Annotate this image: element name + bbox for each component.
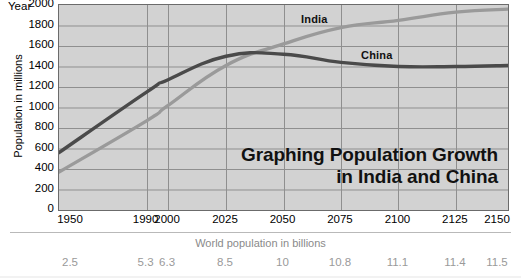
world-population-value: 6.3: [159, 256, 175, 268]
x-tick-label: 1950: [57, 213, 83, 225]
chart-title-line-2: in India and China: [178, 166, 498, 188]
y-tick-label: 1200: [10, 80, 54, 92]
y-tick-label: 200: [10, 183, 54, 195]
world-population-value: 2.5: [62, 256, 78, 268]
world-population-value: 11.1: [387, 256, 409, 268]
x-tick-label: 2075: [327, 213, 353, 225]
y-tick-label: 400: [10, 162, 54, 174]
series-line-china: [59, 53, 508, 153]
x-tick-label: 2050: [270, 213, 296, 225]
series-label-china: China: [361, 49, 393, 61]
world-population-value: 10: [276, 256, 289, 268]
divider-rule: [10, 232, 511, 233]
world-population-value: 8.5: [217, 256, 233, 268]
y-tick-label: 800: [10, 121, 54, 133]
world-population-value: 5.3: [138, 256, 154, 268]
y-tick-label: 1000: [10, 101, 54, 113]
series-label-india: India: [301, 13, 328, 25]
chart-title: Graphing Population Growth in India and …: [178, 144, 498, 189]
y-tick-label: 1800: [10, 19, 54, 31]
y-tick-label: 1400: [10, 60, 54, 72]
secondary-axis-caption: World population in billions: [0, 237, 521, 249]
y-tick-label: 1600: [10, 39, 54, 51]
x-tick-label: 2125: [442, 213, 468, 225]
world-population-tick-labels: 2.55.36.38.51010.811.111.411.5: [0, 256, 521, 272]
y-tick-label: 600: [10, 142, 54, 154]
x-tick-label: 2150: [484, 213, 510, 225]
world-population-value: 10.8: [329, 256, 351, 268]
x-axis-label-year: Year: [8, 0, 31, 12]
world-population-value: 11.4: [444, 256, 466, 268]
chart-title-line-1: Graphing Population Growth: [178, 144, 498, 166]
chart-figure: Population in millions 20001800160014001…: [0, 0, 521, 278]
x-tick-label: 2025: [212, 213, 238, 225]
world-population-value: 11.5: [486, 256, 508, 268]
x-axis-tick-labels: 195019902000202520502075210021252150: [0, 213, 521, 229]
x-tick-label: 2000: [154, 213, 180, 225]
plot-area: India China Graphing Population Growth i…: [58, 4, 509, 211]
x-tick-label: 2100: [385, 213, 411, 225]
